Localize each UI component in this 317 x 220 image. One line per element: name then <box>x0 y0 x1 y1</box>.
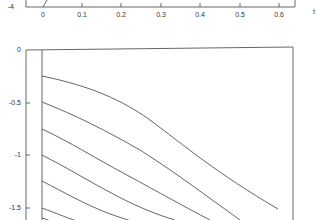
top-plot-y-tick-label: -4 <box>8 3 14 10</box>
top-plot: -4 0 0.1 0.2 0.3 0.4 0.5 0.6 t <box>8 0 315 18</box>
top-x-tick-5: 0.5 <box>235 11 245 18</box>
curve-2 <box>42 102 240 220</box>
y-tick-neg-1-5: -1.5 <box>9 204 21 211</box>
curve-7 <box>42 218 51 220</box>
figure: -4 0 0.1 0.2 0.3 0.4 0.5 0.6 t 0 -0.5 -1… <box>0 0 317 220</box>
y-tick-0: 0 <box>17 46 21 53</box>
curve-1 <box>42 76 278 209</box>
top-x-tick-0: 0 <box>41 11 45 18</box>
top-x-tick-6: 0.6 <box>274 11 284 18</box>
top-x-tick-1: 0.1 <box>77 11 87 18</box>
top-x-tick-3: 0.3 <box>156 11 166 18</box>
bottom-plot: 0 -0.5 -1 -1.5 <box>9 46 293 220</box>
y-tick-neg-0-5: -0.5 <box>9 99 21 106</box>
top-plot-x-ticks <box>82 3 279 7</box>
bottom-plot-y-ticks <box>26 103 30 208</box>
top-plot-curve <box>43 0 47 7</box>
top-x-tick-4: 0.4 <box>195 11 205 18</box>
y-tick-neg-1: -1 <box>15 151 21 158</box>
top-x-axis-label: t <box>313 8 315 15</box>
curve-5 <box>42 181 135 220</box>
curve-6 <box>42 208 80 220</box>
top-x-tick-2: 0.2 <box>116 11 126 18</box>
